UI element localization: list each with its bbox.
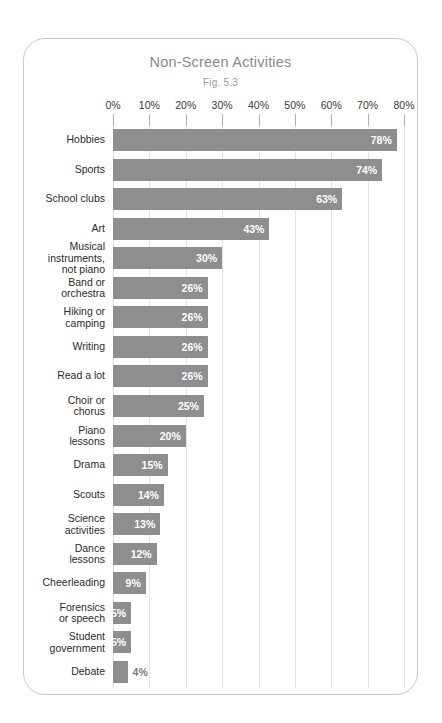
x-axis-tick-label: 50%: [284, 99, 305, 111]
bar-row: Scouts14%: [113, 484, 404, 506]
bar-value-label: 43%: [243, 223, 264, 235]
bar-row: Forensics or speech5%: [113, 602, 404, 624]
bar-value-label: 26%: [182, 341, 203, 353]
bar-row: Drama15%: [113, 454, 404, 476]
category-label: Sports: [0, 164, 105, 176]
x-axis-tick-label: 60%: [321, 99, 342, 111]
category-label: Read a lot: [0, 371, 105, 383]
bar-row: Sports74%: [113, 159, 404, 181]
bar-value-label: 26%: [182, 311, 203, 323]
bar-value-label: 13%: [134, 518, 155, 530]
bar-row: Read a lot26%: [113, 365, 404, 387]
bar-row: Science activities13%: [113, 513, 404, 535]
chart-title: Non-Screen Activities: [24, 54, 417, 70]
bar-row: Piano lessons20%: [113, 425, 404, 447]
bar: 12%: [113, 543, 157, 565]
category-label: Forensics or speech: [0, 601, 105, 624]
category-label: Dance lessons: [0, 542, 105, 565]
category-label: Piano lessons: [0, 424, 105, 447]
bar-row: Dance lessons12%: [113, 543, 404, 565]
bar-value-label: 5%: [111, 607, 126, 619]
x-axis-tick: [222, 114, 223, 126]
category-label: Debate: [0, 666, 105, 678]
category-label: Hiking or camping: [0, 306, 105, 329]
bar-value-label: 14%: [138, 489, 159, 501]
category-label: Art: [0, 223, 105, 235]
x-axis-tick-label: 10%: [139, 99, 160, 111]
chart-subtitle: Fig. 5.3: [24, 77, 417, 88]
bar-row: Hobbies78%: [113, 129, 404, 151]
bar-row: Musical instruments, not piano30%: [113, 247, 404, 269]
bar: 74%: [113, 159, 382, 181]
bar: 5%: [113, 631, 131, 653]
bar: 15%: [113, 454, 168, 476]
bar-value-label: 5%: [111, 636, 126, 648]
category-label: Student government: [0, 631, 105, 654]
bar: 63%: [113, 188, 342, 210]
bar: 13%: [113, 513, 160, 535]
x-axis-tick: [259, 114, 260, 126]
bar-row: Student government5%: [113, 631, 404, 653]
bar-value-label: 15%: [142, 459, 163, 471]
x-axis-tick-label: 40%: [248, 99, 269, 111]
x-axis-tick: [404, 114, 405, 126]
category-label: Hobbies: [0, 134, 105, 146]
bar: 26%: [113, 277, 208, 299]
category-label: Science activities: [0, 513, 105, 536]
x-axis-tick: [295, 114, 296, 126]
category-label: Choir or chorus: [0, 394, 105, 417]
bar-value-label: 30%: [196, 252, 217, 264]
x-axis-tick-label: 0%: [105, 99, 120, 111]
x-axis-tick: [113, 114, 114, 126]
x-axis-tick: [149, 114, 150, 126]
bar: 26%: [113, 336, 208, 358]
category-label: Scouts: [0, 489, 105, 501]
bar-row: Band or orchestra26%: [113, 277, 404, 299]
x-axis-tick-label: 30%: [212, 99, 233, 111]
bar-value-label: 12%: [131, 548, 152, 560]
x-axis-tick-label: 80%: [393, 99, 414, 111]
bar: 5%: [113, 602, 131, 624]
bar-value-label: 78%: [371, 134, 392, 146]
bar: 78%: [113, 129, 397, 151]
bar: 20%: [113, 425, 186, 447]
category-label: Musical instruments, not piano: [0, 241, 105, 276]
bar: 4%: [113, 661, 128, 683]
bar-value-label: 26%: [182, 282, 203, 294]
bar-row: Cheerleading9%: [113, 572, 404, 594]
x-axis: 0%10%20%30%40%50%60%70%80%: [113, 114, 404, 126]
bar: 14%: [113, 484, 164, 506]
bar-value-label: 74%: [356, 164, 377, 176]
gridline: [404, 126, 405, 688]
bar-value-label: 9%: [126, 577, 141, 589]
bar-row: Debate4%: [113, 661, 404, 683]
bar-row: Art43%: [113, 218, 404, 240]
bar-value-label: 4%: [133, 666, 148, 678]
category-label: Band or orchestra: [0, 276, 105, 299]
bar: 26%: [113, 306, 208, 328]
bar-row: Writing26%: [113, 336, 404, 358]
x-axis-tick-label: 70%: [357, 99, 378, 111]
bar: 9%: [113, 572, 146, 594]
bar: 30%: [113, 247, 222, 269]
x-axis-tick: [368, 114, 369, 126]
category-label: Drama: [0, 459, 105, 471]
category-label: Cheerleading: [0, 578, 105, 590]
bar-row: Hiking or camping26%: [113, 306, 404, 328]
x-axis-tick: [331, 114, 332, 126]
bar-value-label: 20%: [160, 430, 181, 442]
bar-row: Choir or chorus25%: [113, 395, 404, 417]
x-axis-tick: [186, 114, 187, 126]
plot-area: Hobbies78%Sports74%School clubs63%Art43%…: [113, 126, 404, 688]
category-label: School clubs: [0, 193, 105, 205]
bar: 43%: [113, 218, 269, 240]
x-axis-tick-label: 20%: [175, 99, 196, 111]
bar-value-label: 63%: [316, 193, 337, 205]
chart-card: Non-Screen Activities Fig. 5.3 0%10%20%3…: [23, 38, 418, 695]
bar: 25%: [113, 395, 204, 417]
bar-value-label: 26%: [182, 370, 203, 382]
bar-value-label: 25%: [178, 400, 199, 412]
bar-row: School clubs63%: [113, 188, 404, 210]
category-label: Writing: [0, 341, 105, 353]
bar: 26%: [113, 365, 208, 387]
